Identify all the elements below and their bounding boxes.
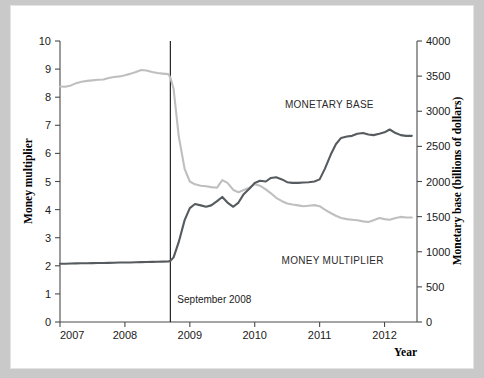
right-tick-label: 1000 [426,246,450,258]
chart-container: 012345678910 050010001500200025003000350… [11,6,473,368]
right-tick-label: 500 [426,281,444,293]
x-tick-label: 2007 [60,329,84,341]
right-tick-label: 2000 [426,176,450,188]
right-tick-label: 1500 [426,211,450,223]
left-tick-label: 10 [39,35,51,47]
september-2008-label: September 2008 [177,294,251,305]
left-tick-label: 3 [45,232,51,244]
monetary-base-series-line [60,130,412,264]
right-tick-label: 2500 [426,140,450,152]
left-axis-ticks: 012345678910 [39,35,60,328]
money-multiplier-series-line [60,70,412,222]
monetary-base-label: MONETARY BASE [285,99,374,110]
left-tick-label: 1 [45,288,51,300]
left-tick-label: 9 [45,63,51,75]
x-tick-label: 2008 [113,329,137,341]
right-tick-label: 3500 [426,70,450,82]
x-tick-label: 2010 [242,329,266,341]
bottom-axis-ticks: 200720082009201020112012 [60,322,397,341]
left-tick-label: 6 [45,147,51,159]
left-tick-label: 4 [45,204,51,216]
x-tick-label: 2009 [178,329,202,341]
right-tick-label: 4000 [426,35,450,47]
left-tick-label: 2 [45,260,51,272]
right-tick-label: 0 [426,316,432,328]
left-tick-label: 8 [45,91,51,103]
left-tick-label: 7 [45,119,51,131]
right-tick-label: 3000 [426,105,450,117]
left-axis-title: Money multiplier [22,138,35,224]
figure-panel: 012345678910 050010001500200025003000350… [11,6,473,368]
money-multiplier-label: MONEY MULTIPLIER [282,255,384,266]
axes-group [60,41,417,322]
x-axis-title: Year [394,346,417,358]
left-tick-label: 5 [45,176,51,188]
x-tick-label: 2011 [308,329,332,341]
right-axis-title: Monetary base (billions of dollars) [451,97,464,266]
money-multiplier-monetary-base-chart: 012345678910 050010001500200025003000350… [11,6,473,368]
x-tick-label: 2012 [372,329,396,341]
right-axis-ticks: 05001000150020002500300035004000 [417,35,450,328]
left-tick-label: 0 [45,316,51,328]
